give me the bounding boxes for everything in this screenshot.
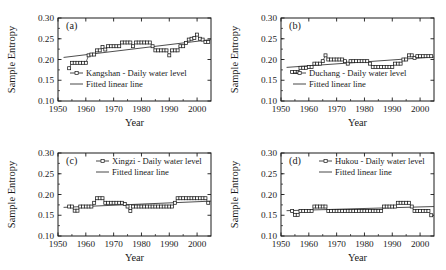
data-point-marker: [324, 205, 327, 208]
y-tick-label: 0.20: [38, 190, 54, 200]
data-point-marker: [394, 205, 397, 208]
y-tick-label: 0.25: [38, 169, 54, 179]
data-point-marker: [165, 49, 168, 52]
data-point-marker: [427, 210, 430, 213]
x-axis-title: Year: [348, 252, 368, 263]
data-point-marker: [410, 205, 413, 208]
data-point-marker: [118, 45, 121, 48]
y-tick-label: 0.20: [261, 190, 277, 200]
x-tick-label: 1990: [160, 239, 179, 249]
y-tick-label: 0.25: [38, 34, 54, 44]
data-point-marker: [324, 54, 327, 57]
legend-entry-series: Kangshan - Daily water level: [70, 68, 187, 78]
y-tick-label: 0.30: [261, 13, 277, 23]
x-tick-label: 2000: [188, 239, 207, 249]
x-tick-label: 2000: [411, 104, 430, 114]
data-point-marker: [291, 210, 294, 213]
panel-b: 0.100.150.200.250.3019501960197019801990…: [223, 0, 446, 135]
data-point-marker: [207, 201, 210, 204]
y-axis-title: Sample Entropy: [6, 160, 17, 228]
legend-entry-series: Duchang - Daily water level: [293, 68, 407, 78]
x-axis-title: Year: [125, 117, 145, 128]
x-tick-label: 1960: [77, 104, 96, 114]
x-tick-label: 1960: [77, 239, 96, 249]
chart-panel-d: 0.100.150.200.250.3019501960197019801990…: [223, 135, 446, 270]
x-tick-label: 1970: [104, 104, 123, 114]
data-point-marker: [98, 49, 101, 52]
data-point-marker: [369, 62, 372, 65]
y-axis-title: Sample Entropy: [6, 25, 17, 93]
data-point-marker: [171, 205, 174, 208]
x-tick-label: 1990: [160, 104, 179, 114]
legend-label-text: Fitted linear line: [309, 79, 366, 89]
x-tick-label: 1950: [49, 104, 68, 114]
x-tick-label: 1980: [132, 104, 151, 114]
legend-square-marker-icon: [324, 159, 327, 162]
data-point-marker: [148, 41, 151, 44]
data-point-marker: [68, 67, 71, 70]
x-tick-label: 1950: [272, 104, 291, 114]
data-point-marker: [151, 45, 154, 48]
data-point-marker: [168, 54, 171, 57]
data-point-marker: [196, 33, 199, 36]
legend-entry-series: Hukou - Daily water level: [319, 156, 425, 166]
data-point-marker: [204, 197, 207, 200]
data-point-marker: [104, 48, 107, 51]
legend-label-text: Duchang - Daily water level: [309, 68, 407, 78]
panel-label: (c): [66, 155, 77, 167]
y-tick-label: 0.30: [38, 148, 54, 158]
legend-entry-fitted: Fitted linear line: [293, 79, 366, 89]
legend-square-marker-icon: [75, 71, 78, 74]
y-tick-label: 0.30: [38, 13, 54, 23]
data-point-marker: [184, 41, 187, 44]
data-point-marker: [380, 210, 383, 213]
x-tick-label: 1980: [132, 239, 151, 249]
legend-label-text: Kangshan - Daily water level: [86, 68, 187, 78]
data-point-marker: [84, 61, 87, 64]
data-point-marker: [93, 201, 96, 204]
y-axis-title: Sample Entropy: [229, 25, 240, 93]
data-point-marker: [93, 53, 96, 56]
data-point-marker: [176, 49, 179, 52]
data-point-marker: [207, 41, 210, 44]
y-tick-label: 0.15: [261, 75, 277, 85]
data-point-marker: [101, 197, 104, 200]
x-tick-label: 1970: [327, 104, 346, 114]
panel-c: 0.100.150.200.250.3019501960197019801990…: [0, 135, 223, 270]
x-tick-label: 2000: [411, 239, 430, 249]
data-point-marker: [430, 214, 433, 217]
legend-label-text: Fitted linear line: [86, 79, 143, 89]
x-tick-label: 2000: [188, 104, 207, 114]
y-tick-label: 0.25: [261, 34, 277, 44]
data-point-marker: [76, 209, 79, 212]
panel-a: 0.100.150.200.250.3019501960197019801990…: [0, 0, 223, 135]
legend-entry-fitted: Fitted linear line: [96, 167, 169, 177]
x-axis-title: Year: [348, 117, 368, 128]
data-point-marker: [182, 45, 185, 48]
data-point-marker: [132, 45, 135, 48]
data-point-marker: [407, 201, 410, 204]
chart-panel-c: 0.100.150.200.250.3019501960197019801990…: [0, 135, 223, 270]
legend-square-marker-icon: [298, 71, 301, 74]
data-point-marker: [70, 205, 73, 208]
legend-square-marker-icon: [101, 159, 104, 162]
data-point-marker: [129, 210, 132, 213]
y-tick-label: 0.20: [38, 55, 54, 65]
x-tick-label: 1970: [327, 239, 346, 249]
x-tick-label: 1960: [300, 104, 319, 114]
figure-container: 0.100.150.200.250.3019501960197019801990…: [0, 0, 446, 270]
panel-label: (b): [289, 20, 301, 32]
data-point-marker: [173, 201, 176, 204]
data-point-marker: [405, 58, 408, 61]
data-point-marker: [430, 55, 433, 58]
x-tick-label: 1990: [383, 239, 402, 249]
x-tick-label: 1950: [272, 239, 291, 249]
legend-label-text: Fitted linear line: [112, 167, 169, 177]
data-point-marker: [90, 205, 93, 208]
chart-panel-b: 0.100.150.200.250.3019501960197019801990…: [223, 0, 446, 135]
y-tick-label: 0.15: [38, 210, 54, 220]
chart-panel-a: 0.100.150.200.250.3019501960197019801990…: [0, 0, 223, 135]
y-tick-label: 0.15: [261, 210, 277, 220]
x-tick-label: 1950: [49, 239, 68, 249]
x-tick-label: 1990: [383, 104, 402, 114]
